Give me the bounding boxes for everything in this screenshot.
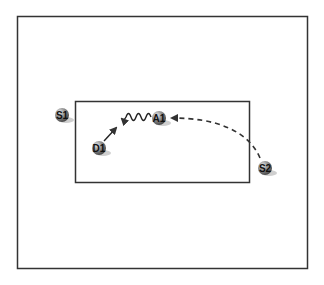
node-d1: D1 (92, 141, 111, 156)
dashed-arrow-s2-a1 (172, 118, 260, 158)
outer-frame (18, 17, 308, 269)
node-label-d1: D1 (93, 143, 106, 154)
node-s2: S2 (258, 161, 277, 176)
node-label-a1: A1 (153, 113, 166, 124)
node-label-s2: S2 (259, 163, 272, 174)
node-label-s1: S1 (56, 110, 69, 121)
node-a1: A1 (152, 111, 171, 126)
straight-arrow-d1 (104, 128, 116, 141)
diagram-canvas: S1 D1 A1 S2 (0, 0, 324, 285)
node-s1: S1 (55, 108, 74, 123)
wavy-arrow-a1 (122, 114, 151, 121)
